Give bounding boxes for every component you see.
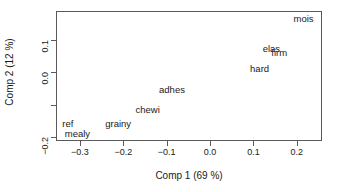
data-point-label: chewi: [136, 105, 160, 115]
pca-loadings-plot: moiselasfirmhardadheschewigrainyrefmealy…: [0, 0, 337, 192]
y-axis-tick: [51, 137, 56, 138]
y-axis-tick: [51, 105, 56, 106]
y-axis-tick: [51, 72, 56, 73]
x-axis-tick-label: −0.3: [60, 147, 100, 157]
x-axis-tick: [123, 141, 124, 146]
y-axis-title: Comp 2 (12 %): [4, 7, 16, 137]
x-axis-tick-label: 0.2: [277, 147, 317, 157]
x-axis-tick-label: −0.2: [103, 147, 143, 157]
plot-panel: moiselasfirmhardadheschewigrainyrefmealy: [56, 11, 322, 141]
x-axis-tick-label: −0.1: [147, 147, 187, 157]
x-axis-tick: [297, 141, 298, 146]
data-point-label: grainy: [105, 119, 131, 129]
data-point-label: adhes: [159, 85, 185, 95]
data-point-label: hard: [250, 64, 269, 74]
x-axis-tick-label: 0.1: [233, 147, 273, 157]
x-axis-tick: [253, 141, 254, 146]
x-axis-tick: [80, 141, 81, 146]
x-axis-tick-label: 0.0: [190, 147, 230, 157]
x-axis-title: Comp 1 (69 %): [56, 170, 322, 182]
data-point-label: mealy: [65, 129, 90, 139]
data-point-label: mois: [293, 14, 313, 24]
y-axis-tick: [51, 40, 56, 41]
data-point-label: firm: [271, 48, 287, 58]
x-axis-tick: [210, 141, 211, 146]
x-axis-tick: [167, 141, 168, 146]
